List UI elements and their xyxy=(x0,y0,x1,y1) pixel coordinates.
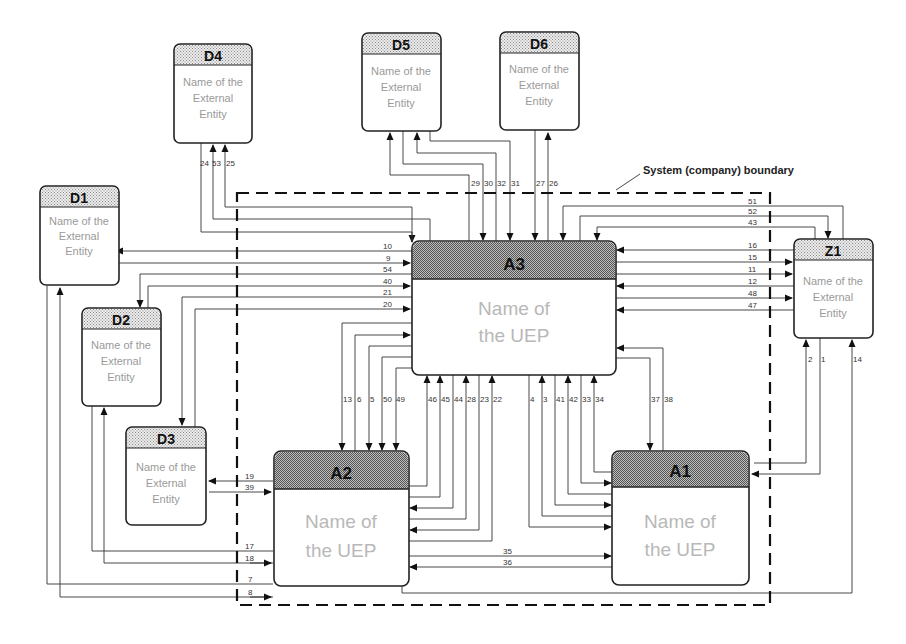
flow-label: 24 xyxy=(200,159,209,168)
flow-54-line xyxy=(140,274,412,307)
svg-text:the UEP: the UEP xyxy=(306,540,377,561)
flow-label: 23 xyxy=(480,395,489,404)
flow-label: 30 xyxy=(484,179,493,188)
entity-d5[interactable]: D5 Name of the External Entity xyxy=(362,33,441,131)
flow-20-line xyxy=(195,309,410,428)
flow-label: 8 xyxy=(248,588,253,597)
flow-label: 15 xyxy=(748,253,757,262)
flow-label: 2 xyxy=(808,355,813,364)
entity-d6[interactable]: D6 Name of the External Entity xyxy=(500,32,579,130)
flow-label: 25 xyxy=(226,159,235,168)
flow-label: 4 xyxy=(530,395,535,404)
flow-21-line xyxy=(182,297,412,425)
flow-label: 49 xyxy=(396,395,405,404)
flow-label: 35 xyxy=(503,547,512,556)
flow-51-line xyxy=(563,206,843,240)
flow-37-line xyxy=(615,358,650,450)
entity-d4[interactable]: D4 Name of the External Entity xyxy=(174,44,252,143)
svg-text:D3: D3 xyxy=(157,431,175,447)
flow-label: 12 xyxy=(748,277,757,286)
flow-label: 18 xyxy=(245,554,254,563)
flow-41-line xyxy=(555,374,611,505)
svg-text:External: External xyxy=(146,477,186,489)
svg-text:Entity: Entity xyxy=(65,245,93,257)
flow-label: 46 xyxy=(428,395,437,404)
flow-label: 20 xyxy=(383,300,392,309)
flow-42-line xyxy=(568,376,613,494)
svg-text:Entity: Entity xyxy=(819,307,847,319)
flow-label: 44 xyxy=(454,395,463,404)
flow-label: 33 xyxy=(582,395,591,404)
svg-text:Entity: Entity xyxy=(152,493,180,505)
svg-text:Entity: Entity xyxy=(525,95,553,107)
flow-label: 34 xyxy=(595,395,604,404)
flow-label: 37 xyxy=(651,395,660,404)
flow-49-line xyxy=(396,368,412,450)
flow-label: 26 xyxy=(549,179,558,188)
flow-33-line xyxy=(581,374,611,483)
flow-label: 14 xyxy=(853,355,862,364)
flow-52-line xyxy=(580,216,828,242)
svg-text:Z1: Z1 xyxy=(825,243,842,259)
entity-d1[interactable]: D1 Name of the External Entity xyxy=(40,186,119,285)
flow-label: 7 xyxy=(248,575,253,584)
uep-a3[interactable]: A3 Name of the UEP xyxy=(412,241,616,375)
flow-2-line xyxy=(754,340,806,463)
flow-label: 36 xyxy=(503,558,512,567)
flow-label: 31 xyxy=(511,179,520,188)
svg-text:External: External xyxy=(193,92,233,104)
flow-label: 3 xyxy=(543,395,548,404)
flow-label: 52 xyxy=(748,207,757,216)
boundary-label: System (company) boundary xyxy=(643,164,795,176)
flow-label: 50 xyxy=(383,395,392,404)
svg-text:External: External xyxy=(519,79,559,91)
flow-label: 5 xyxy=(370,395,375,404)
svg-text:D1: D1 xyxy=(70,190,88,206)
svg-text:D2: D2 xyxy=(112,312,130,328)
flow-label: 13 xyxy=(343,395,352,404)
flow-label: 22 xyxy=(493,395,502,404)
svg-text:Name of the: Name of the xyxy=(136,461,196,473)
flow-43-line xyxy=(597,227,815,240)
flow-label: 51 xyxy=(748,197,757,206)
flow-label: 28 xyxy=(467,395,476,404)
flow-13-line xyxy=(342,323,412,450)
flow-label: 6 xyxy=(357,395,362,404)
entity-d2[interactable]: D2 Name of the External Entity xyxy=(82,308,161,406)
entity-d3[interactable]: D3 Name of the External Entity xyxy=(126,427,206,525)
flow-label: 10 xyxy=(383,242,392,251)
entity-z1[interactable]: Z1 Name of the External Entity xyxy=(794,239,873,338)
flow-label: 16 xyxy=(748,241,757,250)
uep-a1[interactable]: A1 Name of the UEP xyxy=(612,451,749,585)
svg-text:External: External xyxy=(59,230,99,242)
svg-text:A1: A1 xyxy=(669,462,691,481)
flow-label: 42 xyxy=(569,395,578,404)
flow-29-line xyxy=(390,133,469,242)
svg-text:the UEP: the UEP xyxy=(479,325,550,346)
flow-label: 27 xyxy=(536,179,545,188)
svg-text:D6: D6 xyxy=(530,36,548,52)
flow-label: 54 xyxy=(383,265,392,274)
flow-label: 11 xyxy=(748,265,757,274)
entity-id: D4 xyxy=(204,48,222,64)
svg-text:External: External xyxy=(101,355,141,367)
svg-text:Name of the: Name of the xyxy=(803,275,863,287)
svg-text:Name of: Name of xyxy=(305,511,378,532)
svg-text:Name of: Name of xyxy=(644,511,717,532)
svg-text:External: External xyxy=(381,81,421,93)
svg-text:Name of: Name of xyxy=(478,298,551,319)
flow-label: 1 xyxy=(821,355,826,364)
svg-text:External: External xyxy=(813,291,853,303)
flow-label: 48 xyxy=(748,289,757,298)
uep-a2[interactable]: A2 Name of the UEP xyxy=(274,451,409,586)
svg-text:Name of the: Name of the xyxy=(371,65,431,77)
flow-label: 9 xyxy=(386,254,391,263)
svg-text:Name of the: Name of the xyxy=(91,339,151,351)
svg-text:A2: A2 xyxy=(330,464,352,483)
flow-label: 41 xyxy=(556,395,565,404)
flow-label: 38 xyxy=(664,395,673,404)
flow-label: 53 xyxy=(212,159,221,168)
flow-label: 43 xyxy=(748,218,757,227)
flow-label: 39 xyxy=(245,483,254,492)
flow-label: 40 xyxy=(383,277,392,286)
